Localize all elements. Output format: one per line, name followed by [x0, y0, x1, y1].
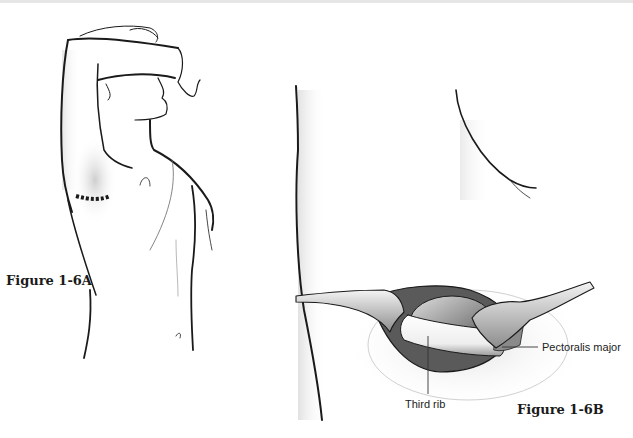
- figure-b-caption: Figure 1-6B: [517, 402, 604, 417]
- surgical-illustration: [0, 0, 633, 438]
- figure-a-caption: Figure 1-6A: [6, 273, 92, 288]
- figure-b-drawing: [296, 86, 594, 420]
- third-rib-label: Third rib: [405, 398, 445, 410]
- pectoralis-major-label: Pectoralis major: [542, 341, 621, 353]
- figure-a-drawing: [61, 26, 213, 358]
